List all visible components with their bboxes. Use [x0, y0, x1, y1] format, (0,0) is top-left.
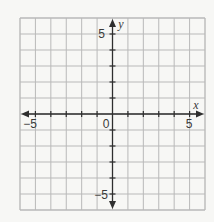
y-tick-label-neg5: −5: [94, 188, 108, 202]
y-axis-up-arrow-icon: [109, 19, 116, 27]
x-tick-label-neg5: −5: [23, 117, 37, 131]
y-axis-name: y: [117, 17, 124, 31]
y-tick-label-5: 5: [98, 27, 105, 41]
x-tick-label-5: 5: [186, 117, 193, 131]
x-axis-name: x: [192, 98, 199, 112]
coordinate-plane: −5 0 5 5 −5 x y: [0, 0, 214, 222]
y-axis-down-arrow-icon: [109, 201, 116, 209]
origin-label: 0: [103, 117, 110, 131]
axes: [21, 19, 204, 209]
